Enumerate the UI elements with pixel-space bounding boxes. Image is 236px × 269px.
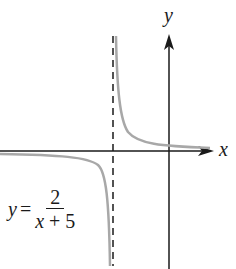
equation-denominator-rest: + 5 <box>44 210 75 232</box>
equation-fraction: 2 x + 5 <box>35 186 75 233</box>
equation-denominator: x + 5 <box>35 209 75 233</box>
curve-right-branch <box>116 36 210 148</box>
equation-lhs: y <box>8 198 17 221</box>
equation-label: y = 2 x + 5 <box>8 186 75 233</box>
equation-denominator-var: x <box>35 210 44 232</box>
y-axis-label: y <box>164 4 173 27</box>
equation-equals: = <box>20 198 31 221</box>
x-axis-label: x <box>219 138 228 161</box>
equation-numerator: 2 <box>46 186 64 209</box>
